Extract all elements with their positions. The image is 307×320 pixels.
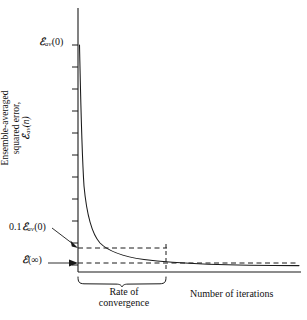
tenth-label-arrowhead — [71, 241, 79, 249]
y-axis-title-line1: Ensemble-averaged — [0, 68, 11, 188]
plot-canvas — [0, 0, 307, 320]
error-decay-curve — [80, 45, 300, 266]
asymptotic-error-label: ℰ(∞) — [22, 254, 42, 265]
tenth-error-label: 0.1ℰav(0) — [9, 221, 46, 233]
asymptotic-error-argument: (∞) — [28, 254, 42, 265]
rate-of-convergence-line1: Rate of — [82, 286, 166, 297]
learning-curve-figure: ℰav(0) 0.1ℰav(0) ℰ(∞) Ensemble-averaged … — [0, 0, 307, 320]
rate-of-convergence-label: Rate of convergence — [82, 286, 166, 308]
y-axis-symbol-subscript: av — [25, 127, 32, 133]
y-axis-title: Ensemble-averaged squared error, ℰav(n) — [0, 68, 32, 188]
y-axis-title-line2: squared error, — [11, 68, 22, 188]
y-axis-symbol-argument: (n) — [21, 116, 31, 127]
initial-error-label: ℰav(0) — [39, 36, 63, 48]
asymptote-label-arrowhead — [69, 259, 78, 266]
tenth-error-argument: (0) — [34, 221, 46, 232]
initial-error-subscript: av — [45, 40, 52, 47]
x-axis-title: Number of iterations — [190, 288, 273, 299]
tenth-label-leader-line — [52, 228, 73, 244]
y-axis-symbol: ℰ — [20, 134, 31, 140]
y-axis-title-line3: ℰav(n) — [21, 68, 32, 188]
tenth-error-prefix: 0.1 — [9, 221, 22, 232]
rate-of-convergence-line2: convergence — [82, 297, 166, 308]
y-axis-ticks — [72, 45, 78, 265]
initial-error-argument: (0) — [52, 36, 64, 47]
